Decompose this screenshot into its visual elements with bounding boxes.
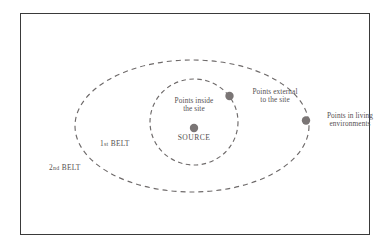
label-points-living-environments: Points in living environments bbox=[314, 112, 386, 128]
source-point-marker bbox=[190, 124, 198, 132]
label-source: SOURCE bbox=[160, 134, 228, 143]
label-points-inside-site: Points inside the site bbox=[153, 97, 235, 113]
label-points-external-line2: to the site bbox=[260, 95, 289, 104]
label-first-belt-word: BELT bbox=[109, 139, 130, 148]
inner-belt-circle bbox=[150, 79, 238, 165]
label-points-living-line2: environments bbox=[330, 119, 371, 128]
label-first-belt: 1st BELT bbox=[100, 140, 130, 148]
label-points-inside-line2: the site bbox=[183, 104, 205, 113]
label-second-belt-word: BELT bbox=[60, 163, 81, 172]
label-second-belt: 2nd BELT bbox=[49, 164, 81, 172]
figure-canvas: Points inside the site SOURCE Points ext… bbox=[0, 0, 390, 248]
living-environment-point-marker bbox=[302, 116, 310, 124]
label-points-external-site: Points external to the site bbox=[240, 88, 310, 104]
